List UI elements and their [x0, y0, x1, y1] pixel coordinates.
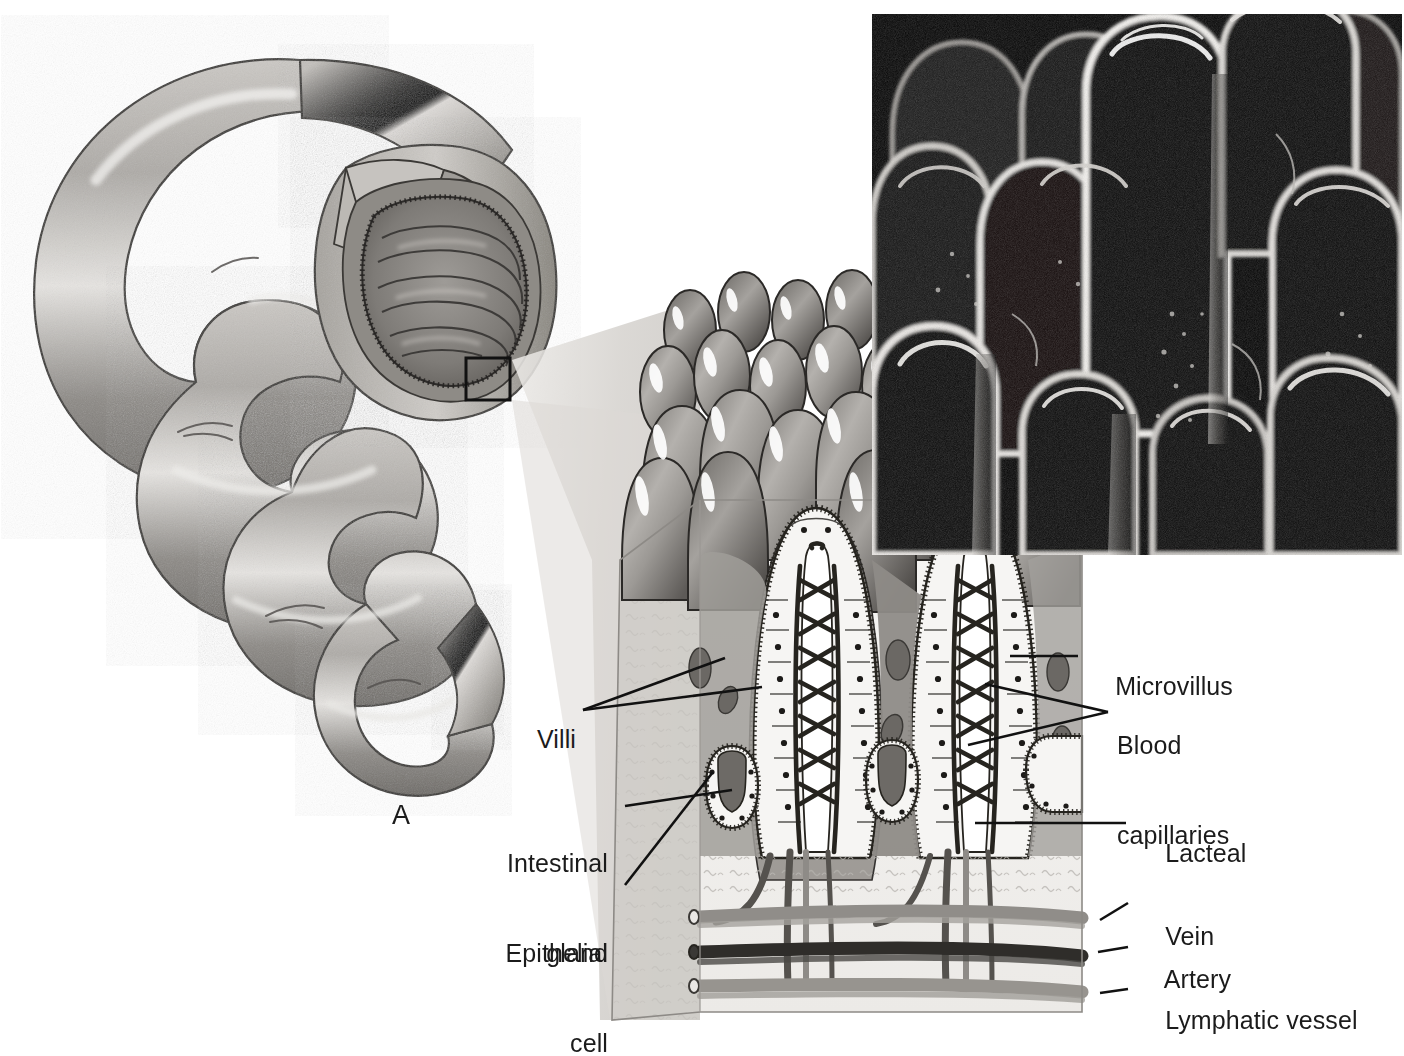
label-epithelial-cell-line2: cell: [280, 1028, 608, 1056]
label-blood-capillaries-line1: Blood: [1117, 730, 1229, 760]
sectioned-villi: [689, 500, 1082, 898]
label-epithelial-cell: Epithelial cell: [280, 878, 608, 1056]
vessel-ends: [689, 910, 699, 993]
label-villi: Villi: [280, 694, 576, 784]
electron-micrograph: [872, 14, 1402, 555]
panel-letter-a: A: [392, 800, 410, 831]
leader-lymphatic-vessel: [1100, 989, 1128, 993]
label-lymphatic-vessel: Lymphatic vessel: [1137, 975, 1358, 1056]
lymphatic-vessel-line: [700, 984, 1082, 992]
micrograph-content: [872, 14, 1402, 555]
label-epithelial-cell-line1: Epithelial: [280, 938, 608, 968]
leader-artery: [1098, 947, 1128, 952]
label-intestinal-gland-line1: Intestinal: [280, 848, 608, 878]
label-lacteal: Lacteal: [1137, 808, 1247, 898]
